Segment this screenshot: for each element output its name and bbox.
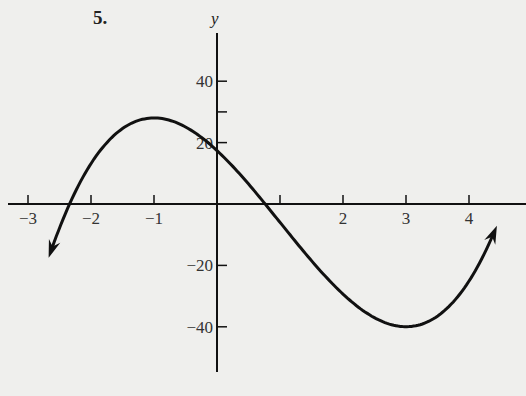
x-tick-label: 4 <box>465 209 474 228</box>
y-tick-label: −40 <box>186 318 213 337</box>
cubic-graph: −3−2−1234 4020−20−40 5. y <box>0 0 526 396</box>
x-tick-label: 2 <box>339 209 348 228</box>
x-tick-label: 3 <box>402 209 411 228</box>
x-tick-label: −1 <box>145 209 163 228</box>
function-curve <box>52 118 493 327</box>
problem-number: 5. <box>93 7 107 28</box>
y-tick-label: 40 <box>196 72 213 91</box>
x-tick-label: −2 <box>82 209 100 228</box>
y-tick-label: −20 <box>186 256 213 275</box>
x-ticks: −3−2−1234 <box>19 195 474 228</box>
y-axis-label: y <box>209 9 219 28</box>
x-tick-label: −3 <box>19 209 37 228</box>
